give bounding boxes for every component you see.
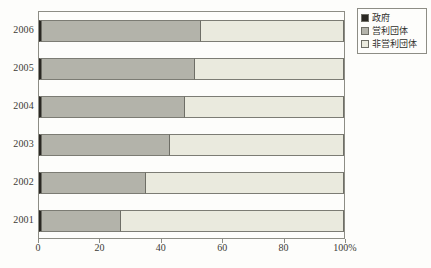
x-axis-label: 40 <box>156 242 166 253</box>
legend-label: 政府 <box>372 14 390 23</box>
y-axis-label: 2003 <box>0 138 34 149</box>
bar-segment <box>42 20 201 42</box>
y-axis-label: 2002 <box>0 176 34 187</box>
x-axis: 020406080100% <box>38 242 345 258</box>
bar-row <box>39 134 344 156</box>
x-axis-label: 20 <box>94 242 104 253</box>
bar-segment <box>195 58 344 80</box>
y-axis-label: 2005 <box>0 62 34 73</box>
legend-label: 非営利団体 <box>372 40 417 49</box>
legend-label: 営利団体 <box>372 27 408 36</box>
chart-legend: 政府営利団体非営利団体 <box>357 8 427 54</box>
bar-row <box>39 172 344 194</box>
x-axis-tick <box>99 239 100 243</box>
x-axis-label: 80 <box>279 242 289 253</box>
bar-segment <box>42 96 185 118</box>
legend-item: 非営利団体 <box>361 38 422 50</box>
y-axis-label: 2004 <box>0 100 34 111</box>
bar-row <box>39 210 344 232</box>
x-axis-tick <box>345 239 346 243</box>
y-axis-label: 2001 <box>0 214 34 225</box>
legend-item: 政府 <box>361 12 422 24</box>
x-axis-tick <box>284 239 285 243</box>
x-axis-label: 60 <box>217 242 227 253</box>
x-axis-tick <box>222 239 223 243</box>
bar-segment <box>42 58 195 80</box>
chart-page: 200620052004200320022001 020406080100% 政… <box>0 0 431 268</box>
bar-segment <box>42 172 146 194</box>
x-axis-tick <box>161 239 162 243</box>
legend-swatch-icon <box>361 14 369 22</box>
bar-row <box>39 20 344 42</box>
x-axis-tick <box>38 239 39 243</box>
x-axis-label: 0 <box>36 242 41 253</box>
bar-row <box>39 58 344 80</box>
y-axis: 200620052004200320022001 <box>0 11 34 239</box>
bar-segment <box>185 96 344 118</box>
bar-segment <box>42 134 170 156</box>
plot-area <box>38 11 345 239</box>
x-axis-label: 100% <box>333 242 356 253</box>
bar-segment <box>170 134 344 156</box>
legend-item: 営利団体 <box>361 25 422 37</box>
bar-segment <box>201 20 344 42</box>
legend-swatch-icon <box>361 27 369 35</box>
bar-segment <box>42 210 121 232</box>
bar-row <box>39 96 344 118</box>
legend-swatch-icon <box>361 40 369 48</box>
bar-segment <box>146 172 344 194</box>
bar-segment <box>121 210 344 232</box>
y-axis-label: 2006 <box>0 24 34 35</box>
